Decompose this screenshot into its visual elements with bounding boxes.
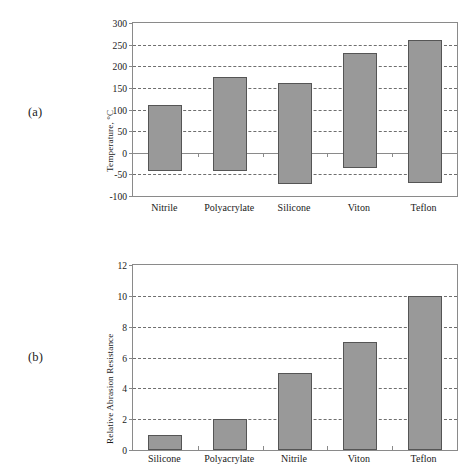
bar xyxy=(408,296,442,450)
panel-b: (b) Relative Abrasion Resistance 0246810… xyxy=(0,248,471,475)
bar-slot xyxy=(327,23,392,196)
bar-slot xyxy=(392,23,457,196)
bar-slot xyxy=(198,265,263,450)
x-axis-tick-label: Nitrile xyxy=(281,453,307,464)
bar-series xyxy=(133,265,457,450)
bar xyxy=(148,105,182,171)
x-axis-tick-label: Teflon xyxy=(411,453,437,464)
panel-a: (a) Temperature, °C -100-500501001502002… xyxy=(0,0,471,240)
y-axis-tick-label: 250 xyxy=(113,39,127,50)
y-axis-tick-label: 0 xyxy=(122,445,127,456)
bar-slot xyxy=(198,23,263,196)
panel-b-plot-area: 024681012 xyxy=(132,264,458,451)
bar-slot xyxy=(263,23,328,196)
x-axis-tick-label: Viton xyxy=(348,453,370,464)
y-axis-tick-label: 4 xyxy=(122,383,127,394)
y-axis-tick-label: 10 xyxy=(117,290,127,301)
y-axis-tick-label: 8 xyxy=(122,321,127,332)
panel-b-label: (b) xyxy=(28,350,43,365)
y-axis-tick-label: -100 xyxy=(109,191,127,202)
bar-slot xyxy=(327,265,392,450)
y-axis-tick-label: -50 xyxy=(114,169,127,180)
bar xyxy=(213,77,247,170)
y-axis-tick-label: 100 xyxy=(113,104,127,115)
x-axis-tick-label: Polyacrylate xyxy=(204,453,254,464)
bar xyxy=(213,419,247,450)
bar xyxy=(278,373,312,450)
bar xyxy=(343,53,377,168)
y-axis-tick-label: 2 xyxy=(122,414,127,425)
panel-b-y-axis-title: Relative Abrasion Resistance xyxy=(105,334,115,444)
y-axis-tick-label: 300 xyxy=(113,18,127,29)
y-axis-tick-label: 200 xyxy=(113,61,127,72)
x-axis-tick-label: Polyacrylate xyxy=(204,202,254,213)
y-axis-tick-label: 150 xyxy=(113,82,127,93)
y-axis-tick-mark xyxy=(129,196,133,197)
bar-slot xyxy=(392,265,457,450)
panel-a-label: (a) xyxy=(28,105,42,120)
figure-two-panel-bar-charts: (a) Temperature, °C -100-500501001502002… xyxy=(0,0,471,475)
bar-slot xyxy=(263,265,328,450)
bar xyxy=(343,342,377,450)
bar-slot xyxy=(133,23,198,196)
bar xyxy=(408,40,442,183)
bar-series xyxy=(133,23,457,196)
bar xyxy=(278,83,312,184)
panel-a-x-axis-labels: NitrilePolyacrylateSiliconeVitonTeflon xyxy=(132,202,456,220)
panel-a-plot-area: -100-50050100150200250300 xyxy=(132,22,458,197)
y-axis-tick-label: 12 xyxy=(117,260,127,271)
x-axis-tick-label: Nitrile xyxy=(151,202,177,213)
y-axis-tick-label: 0 xyxy=(122,147,127,158)
x-axis-tick-label: Viton xyxy=(348,202,370,213)
x-axis-tick-label: Silicone xyxy=(278,202,311,213)
y-axis-tick-label: 50 xyxy=(117,126,127,137)
y-axis-tick-label: 6 xyxy=(122,352,127,363)
panel-b-x-axis-labels: SiliconePolyacrylateNitrileVitonTeflon xyxy=(132,453,456,471)
x-axis-tick-label: Teflon xyxy=(411,202,437,213)
bar-slot xyxy=(133,265,198,450)
y-axis-tick-mark xyxy=(129,450,133,451)
panel-a-y-axis-title: Temperature, °C xyxy=(105,110,115,172)
x-axis-tick-label: Silicone xyxy=(148,453,181,464)
bar xyxy=(148,435,182,450)
